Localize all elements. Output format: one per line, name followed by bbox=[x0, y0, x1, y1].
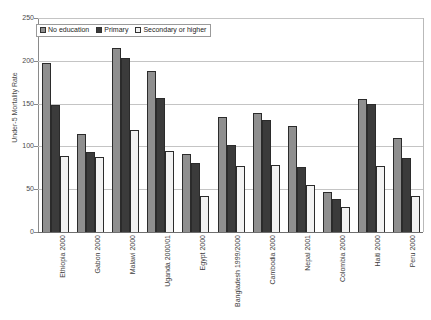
legend-swatch-icon bbox=[135, 27, 141, 33]
x-axis-labels: Ethiopia 2000Gabon 2000Malawi 2000Uganda… bbox=[38, 233, 424, 318]
x-axis-tick-label: Bangladesh 1999/2000 bbox=[234, 235, 242, 307]
bar bbox=[288, 126, 297, 232]
x-axis-tick-label: Nepal 2001 bbox=[304, 235, 312, 271]
y-axis-title: Under-5 Mortality Rate bbox=[11, 53, 18, 163]
bar-group bbox=[213, 18, 248, 232]
y-tick-label-250: 250 bbox=[4, 14, 34, 21]
bar bbox=[130, 130, 139, 232]
legend-swatch-icon bbox=[40, 27, 46, 33]
y-tick-label-150: 150 bbox=[4, 100, 34, 107]
x-label-cell: Colombia 2000 bbox=[319, 233, 354, 318]
bar bbox=[60, 156, 69, 232]
bar-group bbox=[143, 18, 178, 232]
x-label-cell: Haiti 2000 bbox=[354, 233, 389, 318]
legend-label: Secondary or higher bbox=[143, 26, 206, 34]
bar-group bbox=[354, 18, 389, 232]
bar bbox=[156, 98, 165, 232]
x-label-cell: Malawi 2000 bbox=[108, 233, 143, 318]
bar bbox=[77, 134, 86, 232]
bar bbox=[191, 163, 200, 232]
legend-label: No education bbox=[48, 26, 89, 34]
bar bbox=[182, 154, 191, 232]
bar-groups bbox=[38, 18, 424, 232]
bar bbox=[323, 192, 332, 232]
chart-legend: No educationPrimarySecondary or higher bbox=[36, 24, 211, 37]
bar-chart: 250200150100500 Under-5 Mortality Rate N… bbox=[0, 0, 431, 320]
x-axis-tick-label: Cambodia 2000 bbox=[269, 235, 277, 284]
bar bbox=[112, 48, 121, 232]
x-axis-tick-label: Colombia 2000 bbox=[339, 235, 347, 282]
x-axis-tick-label: Malawi 2000 bbox=[129, 235, 137, 274]
x-axis-tick-label: Uganda 2000/01 bbox=[164, 235, 172, 287]
bar-group bbox=[249, 18, 284, 232]
bar bbox=[121, 58, 130, 232]
bar bbox=[393, 138, 402, 232]
bar bbox=[297, 167, 306, 232]
x-label-cell: Bangladesh 1999/2000 bbox=[213, 233, 248, 318]
legend-item-2[interactable]: Secondary or higher bbox=[135, 26, 206, 34]
x-axis-tick-label: Gabon 2000 bbox=[94, 235, 102, 274]
bar bbox=[262, 120, 271, 232]
bar-group bbox=[108, 18, 143, 232]
legend-item-1[interactable]: Primary bbox=[96, 26, 128, 34]
bar-group bbox=[38, 18, 73, 232]
x-label-cell: Uganda 2000/01 bbox=[143, 233, 178, 318]
bar-group bbox=[178, 18, 213, 232]
bar bbox=[402, 158, 411, 232]
y-tick-label-50: 50 bbox=[4, 185, 34, 192]
legend-label: Primary bbox=[104, 26, 128, 34]
legend-item-0[interactable]: No education bbox=[40, 26, 89, 34]
bar-group bbox=[73, 18, 108, 232]
bar bbox=[86, 152, 95, 232]
y-tick-label-100: 100 bbox=[4, 142, 34, 149]
bar-group bbox=[284, 18, 319, 232]
bar bbox=[200, 196, 209, 232]
bar bbox=[253, 113, 262, 232]
x-axis-tick-label: Egypt 2000 bbox=[199, 235, 207, 270]
bar bbox=[165, 151, 174, 232]
x-label-cell: Peru 2000 bbox=[389, 233, 424, 318]
bar bbox=[236, 166, 245, 232]
x-axis-tick-label: Ethiopia 2000 bbox=[59, 235, 67, 278]
x-label-cell: Gabon 2000 bbox=[73, 233, 108, 318]
y-tick-label-200: 200 bbox=[4, 57, 34, 64]
bar bbox=[51, 105, 60, 232]
bar-group bbox=[319, 18, 354, 232]
x-label-cell: Egypt 2000 bbox=[178, 233, 213, 318]
bar bbox=[227, 145, 236, 232]
bar-group bbox=[389, 18, 424, 232]
bar bbox=[271, 165, 280, 232]
bar bbox=[411, 196, 420, 232]
bar bbox=[358, 99, 367, 232]
x-label-cell: Nepal 2001 bbox=[284, 233, 319, 318]
bar bbox=[147, 71, 156, 232]
bar bbox=[367, 104, 376, 232]
bar bbox=[42, 63, 51, 232]
bar bbox=[332, 199, 341, 232]
bar bbox=[218, 117, 227, 232]
x-axis-tick-label: Peru 2000 bbox=[409, 235, 417, 267]
bar bbox=[95, 157, 104, 232]
y-tick-label-0: 0 bbox=[4, 228, 34, 235]
legend-swatch-icon bbox=[96, 27, 102, 33]
bar bbox=[306, 185, 315, 232]
bar bbox=[341, 207, 350, 232]
bar bbox=[376, 166, 385, 232]
x-label-cell: Cambodia 2000 bbox=[249, 233, 284, 318]
x-axis-tick-label: Haiti 2000 bbox=[374, 235, 382, 267]
x-label-cell: Ethiopia 2000 bbox=[38, 233, 73, 318]
